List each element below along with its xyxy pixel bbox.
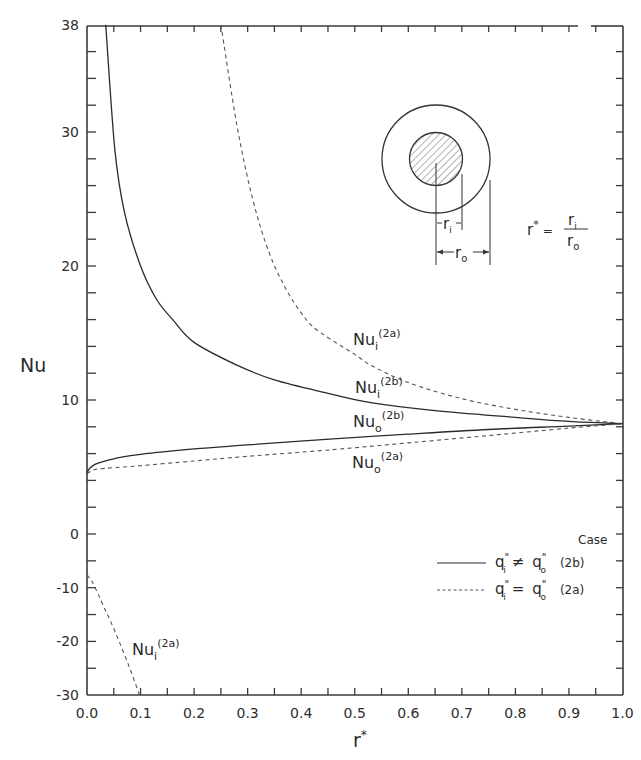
legend-row-2b: q"i≠q"o(2b) bbox=[495, 552, 585, 575]
y-tick-label: 10 bbox=[61, 392, 79, 408]
x-axis-title: r* bbox=[353, 728, 367, 751]
x-tick-label: 0.9 bbox=[558, 705, 580, 721]
y-tick-label: 20 bbox=[61, 258, 79, 274]
formula-numerator: ri bbox=[568, 211, 577, 231]
legend: Case q"i≠q"o(2b) q"i=q"o(2a) bbox=[437, 533, 607, 602]
r-i-label: ri bbox=[443, 215, 452, 235]
curve-nu-i-2a-negative-branch bbox=[87, 575, 140, 695]
y-tick-label: 38 bbox=[61, 17, 79, 33]
legend-row-2a: q"i=q"o(2a) bbox=[495, 579, 584, 602]
x-tick-label: 0.5 bbox=[344, 705, 366, 721]
x-tick-label: 0.6 bbox=[397, 705, 419, 721]
legend-header: Case bbox=[578, 533, 607, 547]
x-tick-label: 1.0 bbox=[611, 705, 633, 721]
x-tick-label: 0.0 bbox=[76, 705, 98, 721]
y-tick-label: -20 bbox=[56, 633, 79, 649]
label-nu-i-2a-lower: Nui(2a) bbox=[132, 637, 180, 663]
y-tick-label: -10 bbox=[56, 580, 79, 596]
x-tick-label: 0.1 bbox=[129, 705, 151, 721]
x-tick-label: 0.2 bbox=[183, 705, 205, 721]
x-tick-label: 0.4 bbox=[290, 705, 312, 721]
x-tick-label: 0.3 bbox=[237, 705, 259, 721]
curve-nu-i-2a bbox=[221, 25, 623, 424]
r-o-label: ro bbox=[455, 244, 467, 264]
formula-denominator: ro bbox=[567, 232, 579, 252]
label-nu-o-2a: Nuo(2a) bbox=[352, 450, 403, 476]
r-star-formula: r*= bbox=[527, 218, 553, 239]
axis-tick-labels: 0.00.10.20.30.40.50.60.70.80.91.03830201… bbox=[56, 17, 634, 721]
y-tick-label: 30 bbox=[61, 124, 79, 140]
y-tick-label: -30 bbox=[56, 687, 79, 703]
y-axis-title: Nu bbox=[20, 354, 46, 376]
nusselt-chart: 0.00.10.20.30.40.50.60.70.80.91.03830201… bbox=[0, 0, 641, 760]
label-nu-i-2b: Nui(2b) bbox=[355, 375, 403, 401]
x-tick-label: 0.7 bbox=[451, 705, 473, 721]
label-nu-i-2a-upper: Nui(2a) bbox=[353, 327, 401, 353]
y-tick-label: 0 bbox=[70, 526, 79, 542]
annulus-inset: ri ro r*= ri ro bbox=[382, 105, 588, 265]
label-nu-o-2b: Nuo(2b) bbox=[353, 409, 404, 435]
x-tick-label: 0.8 bbox=[504, 705, 526, 721]
